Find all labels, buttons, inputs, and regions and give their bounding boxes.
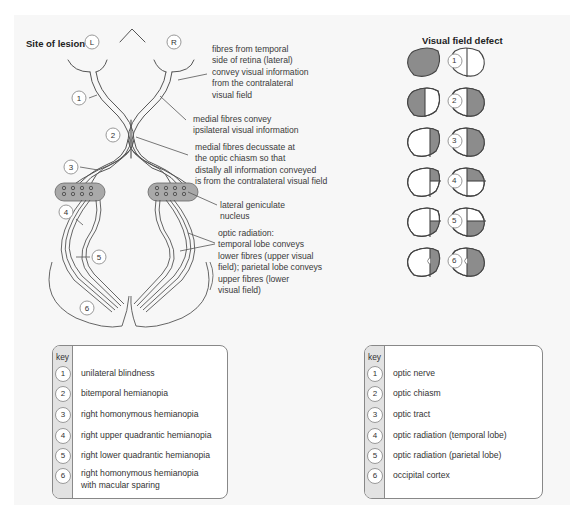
- key-item-text: right homonymous hemianopia with macular…: [81, 468, 199, 491]
- key-item-text: right homonymous hemianopia: [81, 409, 199, 421]
- key-number: 3: [55, 407, 71, 423]
- annotation-lgn: lateral geniculate nucleus: [220, 200, 285, 223]
- key-box-pathway-sites: key 1 optic nerve 2 optic chiasm 3 optic…: [364, 345, 543, 499]
- key-number: 2: [55, 386, 71, 402]
- lgn-left: [55, 183, 105, 201]
- key-item-text: optic radiation (temporal lobe): [393, 430, 507, 442]
- defect-number-6: 6: [452, 255, 456, 266]
- lesion-marker-1: 1: [77, 94, 82, 103]
- defect-number-4: 4: [452, 175, 456, 186]
- defect-number-1: 1: [452, 55, 456, 66]
- lesion-marker-4: 4: [64, 208, 69, 217]
- key-header: key: [368, 352, 381, 362]
- annotation-optic-radiation: optic radiation: temporal lobe conveys l…: [218, 228, 322, 296]
- key-item-text: right upper quadrantic hemianopia: [81, 430, 211, 442]
- key-item-text: unilateral blindness: [81, 368, 155, 380]
- key-item-text: optic chiasm: [393, 388, 441, 400]
- lesion-marker-2: 2: [111, 131, 116, 140]
- key-number: 3: [367, 407, 383, 423]
- key-number: 5: [367, 448, 383, 464]
- eye-label-left: L: [90, 38, 95, 47]
- key-number: 4: [55, 428, 71, 444]
- defect-number-5: 5: [452, 215, 456, 226]
- visual-field-defects: [408, 48, 486, 277]
- eye-label-right: R: [171, 38, 177, 47]
- key-number: 1: [367, 366, 383, 382]
- key-number: 4: [367, 428, 383, 444]
- key-number: 5: [55, 448, 71, 464]
- nose-outline: [120, 29, 145, 42]
- key-number: 2: [367, 386, 383, 402]
- occipital-outline-left: [49, 262, 129, 327]
- site-of-lesion-title: Site of lesion: [26, 38, 85, 49]
- key-item-text: optic nerve: [393, 368, 435, 380]
- lesion-marker-6: 6: [85, 304, 90, 313]
- defect-number-3: 3: [452, 135, 456, 146]
- key-number: 1: [55, 366, 71, 382]
- annotation-temporal-fibres: fibres from temporal side of retina (lat…: [212, 44, 309, 101]
- lesion-marker-3: 3: [69, 163, 74, 172]
- key-item-text: optic tract: [393, 409, 430, 421]
- key-item-text: right lower quadrantic hemianopia: [81, 450, 210, 462]
- key-item-text: optic radiation (parietal lobe): [393, 450, 501, 462]
- key-number: 6: [367, 468, 383, 484]
- visual-field-defect-title: Visual field defect: [422, 35, 503, 46]
- key-header: key: [56, 352, 69, 362]
- key-item-text: occipital cortex: [393, 470, 450, 482]
- lesion-marker-5: 5: [97, 253, 102, 262]
- key-number: 6: [55, 468, 71, 484]
- annotation-decussate: medial fibres decussate at the optic chi…: [195, 142, 327, 188]
- key-item-text: bitemporal hemianopia: [81, 388, 168, 400]
- lgn-right: [148, 183, 198, 201]
- annotation-medial-fibres: medial fibres convey ipsilateral visual …: [193, 114, 299, 137]
- defect-number-2: 2: [452, 95, 456, 106]
- key-box-lesion-defects: key 1 unilateral blindness 2 bitemporal …: [52, 345, 228, 499]
